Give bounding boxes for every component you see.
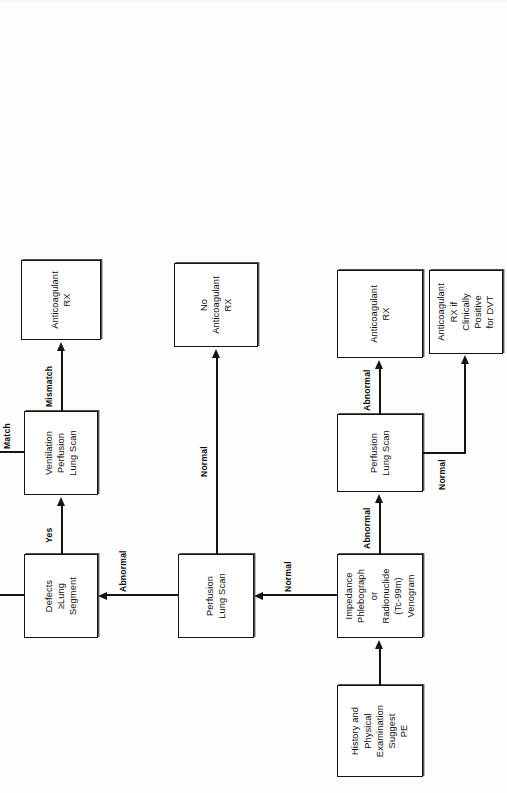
- node-label: Anticoagulant RX: [368, 285, 393, 343]
- arrowhead-n6-n7: [212, 349, 220, 358]
- edge-n1-n2: [379, 649, 381, 685]
- node-history-physical-exam[interactable]: History and Physical Examination Suggest…: [337, 685, 423, 777]
- arrowhead-n1-n2: [375, 640, 383, 649]
- edge-n6-n8-vert: [106, 594, 178, 596]
- arrowhead-n3-n5: [461, 355, 469, 364]
- node-anticoagulant-rx-mismatch[interactable]: Anticoagulant RX: [21, 260, 101, 340]
- node-label: History and Physical Examination Suggest…: [349, 705, 410, 757]
- edge-n8-n11-vert: [0, 594, 24, 596]
- edge-n3-n4: [379, 369, 381, 414]
- node-label: No Anticoagulant RX: [198, 276, 235, 334]
- edge-label-match-n9-n11: Match: [2, 423, 12, 449]
- node-label: Ventilation Perfusion Lung Scan: [43, 430, 80, 475]
- edge-label-abnormal-n6-n8: Abnormal: [118, 550, 128, 592]
- node-ventilation-perfusion-lung-scan[interactable]: Ventilation Perfusion Lung Scan: [24, 411, 98, 495]
- node-label: Defects ≥Lung Segment: [43, 577, 80, 615]
- node-label: Anticoagulant RX if Clinically Positive …: [435, 283, 496, 341]
- scan-edge-top: [0, 0, 507, 1]
- arrowhead-n6-n8: [98, 592, 107, 600]
- edge-n2-n6-vert: [262, 594, 337, 596]
- edge-n9-n11-vert: [0, 451, 24, 453]
- arrowhead-n9-n10: [57, 342, 65, 351]
- node-perfusion-lung-scan-dvt-path[interactable]: Perfusion Lung Scan: [337, 414, 423, 492]
- node-impedance-phlebograph[interactable]: Impedance Phlebograph or Radionuclide (T…: [337, 554, 423, 638]
- edge-n3-n5-horz: [464, 364, 466, 454]
- node-perfusion-lung-scan-main[interactable]: Perfusion Lung Scan: [178, 554, 254, 638]
- node-label: Impedance Phlebograph or Radionuclide (T…: [343, 569, 417, 624]
- edge-label-abnormal-n3-n4: Abnormal: [362, 369, 372, 411]
- edge-label-yes-n8-n9: Yes: [44, 528, 54, 543]
- node-no-anticoagulant-rx-perfusion-normal[interactable]: No Anticoagulant RX: [174, 263, 258, 347]
- edge-n6-n7: [216, 358, 218, 554]
- node-label: Perfusion Lung Scan: [204, 573, 229, 618]
- edge-n2-n3: [379, 503, 381, 554]
- edge-n3-n5-vert: [423, 452, 466, 454]
- figure-page: History and Physical Examination Suggest…: [0, 0, 507, 793]
- flowchart-stage: History and Physical Examination Suggest…: [0, 0, 507, 793]
- edge-n9-n10: [61, 351, 63, 411]
- node-anticoagulant-rx-dvt[interactable]: Anticoagulant RX: [337, 270, 423, 358]
- arrowhead-n2-n3: [375, 494, 383, 503]
- node-anticoagulant-rx-if-clinically-positive[interactable]: Anticoagulant RX if Clinically Positive …: [429, 270, 503, 354]
- edge-n8-n9: [61, 506, 63, 554]
- edge-label-mismatch-n9-n10: Mismatch: [44, 366, 54, 407]
- node-defects-lung-segment[interactable]: Defects ≥Lung Segment: [24, 554, 98, 638]
- edge-label-normal-n6-n7: Normal: [199, 446, 209, 477]
- arrowhead-n8-n9: [57, 497, 65, 506]
- edge-label-normal-n3-n5: Normal: [437, 459, 447, 490]
- node-label: Anticoagulant RX: [49, 271, 74, 329]
- arrowhead-n2-n6: [254, 592, 263, 600]
- edge-label-normal-n2-n6: Normal: [283, 561, 293, 592]
- edge-label-abnormal-n2-n3: Abnormal: [362, 507, 372, 549]
- node-label: Perfusion Lung Scan: [368, 430, 393, 475]
- arrowhead-n3-n4: [375, 360, 383, 369]
